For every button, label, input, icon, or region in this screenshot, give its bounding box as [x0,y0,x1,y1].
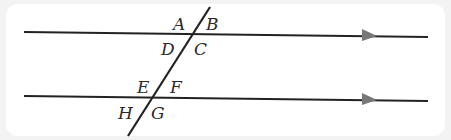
angle-label-d: D [160,39,175,59]
top-arrow-icon [362,29,377,41]
transversal-line [128,7,210,136]
angle-label-c: C [194,39,207,59]
diagram-canvas: A B D C E F H G [0,0,451,140]
diagram-svg: A B D C E F H G [0,0,451,140]
angle-label-g: G [151,103,165,123]
angle-label-e: E [136,77,150,97]
angle-label-a: A [171,14,185,34]
angle-label-b: B [205,14,219,34]
angle-label-h: H [117,103,134,123]
bottom-arrow-icon [362,93,377,105]
angle-label-f: F [169,77,183,97]
